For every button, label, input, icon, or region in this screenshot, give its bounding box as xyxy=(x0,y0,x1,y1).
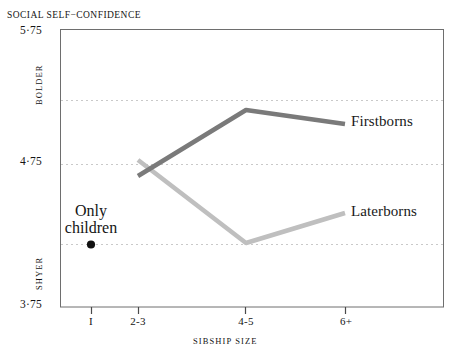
series-label-firstborns: Firstborns xyxy=(351,113,413,130)
series-label-laterborns: Laterborns xyxy=(351,203,417,220)
plot-frame xyxy=(61,30,444,308)
annotation-only-children-line2: children xyxy=(65,220,117,237)
plot-area xyxy=(0,0,460,359)
x-axis-title: SIBSHIP SIZE xyxy=(193,336,258,346)
y-axis-tick-4-75: 4·75 xyxy=(20,155,42,167)
x-axis-tick-2-3: 2-3 xyxy=(130,315,145,327)
annotation-only-children-line1: Only xyxy=(65,203,117,220)
x-axis-tick-4-5: 4-5 xyxy=(238,315,253,327)
annotation-only-children: Only children xyxy=(65,203,117,236)
y-axis-tick-3-75: 3·75 xyxy=(20,298,42,310)
x-axis-tick-1: I xyxy=(89,315,93,327)
chart-page: SOCIAL SELF−CONFIDENCE 5·75 4·75 3·75 BO… xyxy=(0,0,460,359)
y-axis-tick-5-75: 5·75 xyxy=(20,24,42,36)
x-axis-tick-6-plus: 6+ xyxy=(340,315,352,327)
only-children-marker xyxy=(87,240,95,248)
y-axis-label-bolder: BOLDER xyxy=(34,64,44,105)
y-axis-label-shyer: SHYER xyxy=(34,257,44,290)
